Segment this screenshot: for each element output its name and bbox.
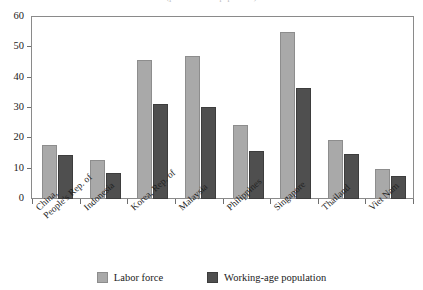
y-tick-mark: [27, 137, 31, 138]
bar-labor-force: [137, 60, 152, 199]
y-tick-mark: [27, 46, 31, 47]
bar-group: [270, 17, 318, 199]
bar-group: [365, 17, 413, 199]
legend-swatch-icon: [207, 272, 218, 283]
legend-item[interactable]: Working-age population: [207, 272, 326, 283]
y-axis: 0102030405060: [0, 0, 31, 215]
legend-label: Working-age population: [224, 272, 326, 283]
bar-labor-force: [280, 32, 295, 199]
chart-title-text: (percent of total population): [167, 0, 257, 2]
bar-labor-force: [185, 56, 200, 199]
y-tick-mark: [27, 168, 31, 169]
y-tick-mark: [27, 107, 31, 108]
y-tick-label: 30: [0, 102, 24, 113]
legend-swatch-icon: [97, 272, 108, 283]
x-axis-labels: China,People's Rep. ofIndonesiaKorea, Re…: [0, 203, 423, 265]
bar-chart: (percent of total population) 0102030405…: [0, 0, 423, 290]
y-tick-label: 50: [0, 41, 24, 52]
y-tick-label: 20: [0, 132, 24, 143]
y-tick-label: 0: [0, 193, 24, 204]
bars-container: [32, 17, 413, 199]
bar-group: [318, 17, 366, 199]
bar-group: [175, 17, 223, 199]
bar-group: [223, 17, 271, 199]
y-tick-mark: [27, 77, 31, 78]
legend-item[interactable]: Labor force: [97, 272, 163, 283]
chart-title-cutoff: (percent of total population): [0, 0, 423, 7]
y-tick-label: 60: [0, 11, 24, 22]
y-tick-label: 10: [0, 163, 24, 174]
legend-label: Labor force: [114, 272, 163, 283]
y-tick-label: 40: [0, 72, 24, 83]
chart-legend: Labor forceWorking-age population: [0, 267, 423, 287]
